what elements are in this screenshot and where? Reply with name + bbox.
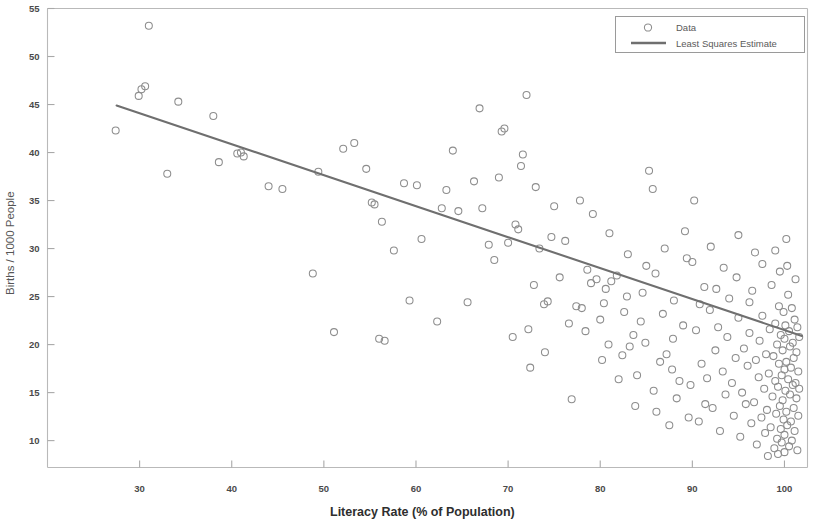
y-tick-label: 10 (29, 435, 40, 446)
data-point (363, 165, 370, 172)
data-point (787, 364, 794, 371)
y-tick-label: 40 (29, 147, 40, 158)
data-point (753, 441, 760, 448)
data-point (530, 282, 537, 289)
data-point (340, 145, 347, 152)
data-point (740, 345, 747, 352)
y-tick-label: 30 (29, 243, 40, 254)
data-point (669, 366, 676, 373)
data-point (518, 162, 525, 169)
data-point (722, 391, 729, 398)
data-point (733, 274, 740, 281)
data-point (698, 360, 705, 367)
x-tick-label: 100 (777, 483, 793, 494)
data-point (390, 247, 397, 254)
x-axis-title: Literacy Rate (% of Population) (330, 505, 515, 519)
y-axis-title: Births / 1000 People (4, 191, 16, 295)
data-point (624, 251, 631, 258)
data-point (774, 435, 781, 442)
data-point (709, 404, 716, 411)
data-point (783, 408, 790, 415)
data-point (732, 355, 739, 362)
data-point (639, 289, 646, 296)
data-point (776, 268, 783, 275)
data-point (791, 428, 798, 435)
data-point (606, 230, 613, 237)
plot-canvas: 10152025303540455055 30405060708090100 D… (0, 0, 815, 519)
data-point (527, 364, 534, 371)
data-point (763, 351, 770, 358)
data-point (790, 404, 797, 411)
data-point (646, 167, 653, 174)
data-point (582, 328, 589, 335)
data-point (661, 245, 668, 252)
data-point (775, 451, 782, 458)
data-point (623, 293, 630, 300)
data-point (772, 247, 779, 254)
screenshot-root: 10152025303540455055 30405060708090100 D… (0, 0, 815, 519)
x-tick-label: 80 (595, 483, 606, 494)
data-point (626, 343, 633, 350)
data-point (704, 375, 711, 382)
data-point (630, 331, 637, 338)
data-point (681, 228, 688, 235)
data-point (780, 308, 787, 315)
data-point (621, 308, 628, 315)
data-point (702, 401, 709, 408)
y-tick-label: 35 (29, 195, 40, 206)
data-point (565, 320, 572, 327)
data-point (619, 352, 626, 359)
data-point (792, 276, 799, 283)
data-point (593, 276, 600, 283)
data-point (279, 186, 286, 193)
data-point (556, 274, 563, 281)
y-axis-ticks: 10152025303540455055 (29, 3, 55, 446)
data-point (532, 184, 539, 191)
data-point (551, 203, 558, 210)
data-point (751, 399, 758, 406)
data-point (455, 208, 462, 215)
data-point (768, 282, 775, 289)
data-point (724, 333, 731, 340)
y-tick-label: 20 (29, 339, 40, 350)
data-point (434, 318, 441, 325)
data-point (265, 183, 272, 190)
y-tick-label: 55 (29, 3, 40, 14)
data-point (779, 397, 786, 404)
data-point (689, 259, 696, 266)
data-point (663, 351, 670, 358)
data-point (726, 295, 733, 302)
plot-frame (48, 9, 808, 468)
data-point (523, 91, 530, 98)
data-point (712, 347, 719, 354)
data-point (634, 372, 641, 379)
data-point (785, 291, 792, 298)
data-point (666, 422, 673, 429)
legend-label-data: Data (676, 22, 697, 33)
data-point (779, 347, 786, 354)
data-point (491, 257, 498, 264)
data-point (781, 431, 788, 438)
data-point (413, 182, 420, 189)
data-point (657, 358, 664, 365)
data-point (793, 395, 800, 402)
data-point (761, 385, 768, 392)
data-point (795, 368, 802, 375)
x-tick-label: 50 (319, 483, 330, 494)
data-point (713, 285, 720, 292)
data-point (773, 410, 780, 417)
data-point (764, 452, 771, 459)
y-tick-label: 25 (29, 291, 40, 302)
x-tick-label: 60 (411, 483, 422, 494)
data-point (737, 433, 744, 440)
data-point (755, 374, 762, 381)
data-point (706, 307, 713, 314)
data-point (509, 333, 516, 340)
data-point (730, 412, 737, 419)
data-point (449, 147, 456, 154)
data-point (775, 383, 782, 390)
data-point (746, 330, 753, 337)
data-point (782, 387, 789, 394)
data-point (670, 335, 677, 342)
data-point (589, 210, 596, 217)
